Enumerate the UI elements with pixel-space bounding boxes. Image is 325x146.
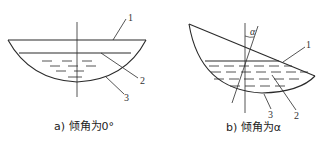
figure-a-drawing (8, 19, 146, 97)
leader-lines (264, 47, 305, 110)
label-liquid-surface: 2 (140, 76, 145, 86)
label-bowl: 3 (124, 93, 129, 103)
angle-symbol: α (250, 27, 255, 37)
liquid-dashes (42, 61, 96, 77)
label-bowl: 3 (268, 110, 273, 120)
caption-a: a) 倾角为0° (54, 121, 114, 132)
label-liquid-surface: 2 (294, 111, 299, 121)
label-rim: 1 (128, 13, 133, 23)
caption-b: b) 倾角为α (226, 122, 281, 133)
leader-lines (101, 19, 138, 94)
label-rim: 1 (306, 40, 311, 50)
